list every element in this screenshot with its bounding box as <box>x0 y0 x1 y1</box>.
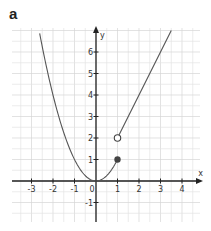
y-tick-label: 5 <box>88 70 93 79</box>
x-tick-label: 3 <box>158 185 163 194</box>
tick-labels: -3-2-101234-1123456 <box>28 48 185 208</box>
y-tick-label: 3 <box>88 113 93 122</box>
x-tick-label: 2 <box>136 185 141 194</box>
parabola-curve <box>40 33 117 181</box>
y-tick-label: 2 <box>88 134 93 143</box>
grid <box>12 28 200 222</box>
y-axis-label: y <box>100 31 105 40</box>
y-tick-label: -1 <box>85 199 93 208</box>
x-axis-label: x <box>198 169 203 178</box>
axes: xy <box>12 26 203 222</box>
x-tick-label: -3 <box>28 185 36 194</box>
y-tick-label: 6 <box>88 48 93 57</box>
y-tick-label: 4 <box>88 91 93 100</box>
function-graph: xy -3-2-101234-1123456 <box>0 0 211 231</box>
open-endpoint <box>114 135 120 141</box>
x-tick-label: 1 <box>115 185 120 194</box>
closed-endpoint <box>114 156 120 162</box>
x-tick-label: 4 <box>179 185 184 194</box>
y-axis-arrow-icon <box>93 26 99 33</box>
y-tick-label: 1 <box>88 156 93 165</box>
x-axis-arrow-icon <box>196 178 203 184</box>
x-tick-label: 0 <box>89 185 94 194</box>
x-tick-label: -1 <box>71 185 79 194</box>
x-tick-label: -2 <box>49 185 57 194</box>
